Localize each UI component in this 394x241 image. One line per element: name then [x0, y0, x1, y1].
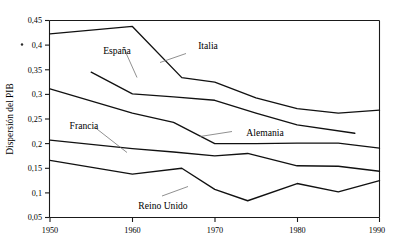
y-tick-label-02: 0,2	[32, 140, 42, 149]
chart-figure: 0,45 0,4 0,35 0,3 0,25 0,2 0,15 0,1 0,05…	[0, 0, 394, 241]
stray-ink-dot	[21, 43, 23, 45]
x-tick-label-1990: 1990	[369, 226, 385, 235]
series-label-francia: Francia	[70, 120, 100, 131]
series-group	[50, 26, 380, 200]
y-tick-label-01: 0,1	[32, 189, 42, 198]
y-tick-label-015: 0,15	[28, 164, 42, 173]
y-axis-title: Dispersión del PIB	[5, 83, 15, 154]
series-label-reino-unido: Reino Unido	[138, 200, 188, 211]
leader-line-italia	[160, 54, 186, 63]
leader-line-francia	[95, 128, 127, 153]
y-tick-label-025: 0,25	[28, 115, 42, 124]
y-tick-marks	[45, 21, 50, 218]
y-tick-label-005: 0,05	[28, 213, 42, 222]
y-tick-label-045: 0,45	[28, 16, 42, 25]
y-tick-labels: 0,45 0,4 0,35 0,3 0,25 0,2 0,15 0,1 0,05	[28, 16, 42, 222]
leader-lines-group	[95, 49, 232, 197]
x-tick-marks	[50, 218, 380, 223]
leader-line-alemania	[200, 132, 232, 137]
y-tick-label-035: 0,35	[28, 66, 42, 75]
leader-line-reino-unido	[162, 187, 188, 197]
series-label-espana: España	[103, 45, 131, 56]
y-tick-label-03: 0,3	[32, 90, 42, 99]
series-label-alemania: Alemania	[246, 127, 284, 138]
x-tick-label-1980: 1980	[289, 226, 305, 235]
line-chart-plot: 0,45 0,4 0,35 0,3 0,25 0,2 0,15 0,1 0,05…	[0, 0, 394, 241]
x-tick-label-1950: 1950	[42, 226, 58, 235]
x-tick-labels: 1950 1960 1970 1980 1990	[42, 226, 385, 235]
x-tick-label-1970: 1970	[207, 226, 223, 235]
x-tick-label-1960: 1960	[124, 226, 140, 235]
series-label-italia: Italia	[198, 40, 218, 51]
series-line-espana	[91, 72, 355, 133]
series-line-francia	[50, 140, 380, 171]
series-labels-group: Italia España Alemania Francia Reino Uni…	[70, 40, 285, 211]
y-tick-label-04: 0,4	[32, 41, 42, 50]
series-line-alemania	[50, 89, 380, 148]
